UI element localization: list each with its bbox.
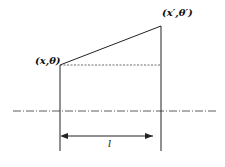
output-point-label: (x′,θ′) — [162, 7, 193, 18]
ray — [60, 26, 161, 65]
length-label: l — [108, 138, 111, 149]
ray-transfer-diagram — [0, 0, 225, 167]
input-point-label: (x,θ) — [35, 55, 61, 66]
